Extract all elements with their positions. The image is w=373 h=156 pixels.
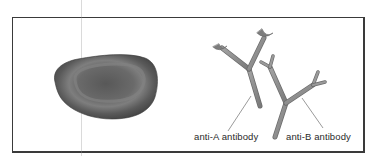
red-blood-cell: [54, 55, 157, 119]
anti-a-antibody-label: anti-A antibody: [194, 131, 258, 142]
anti-b-antibody: [261, 56, 325, 137]
leader-line-anti-a: [228, 96, 251, 131]
anti-a-antibody: [213, 29, 273, 106]
anti-b-antibody-label: anti-B antibody: [286, 131, 351, 142]
leader-line-anti-b: [302, 98, 323, 128]
